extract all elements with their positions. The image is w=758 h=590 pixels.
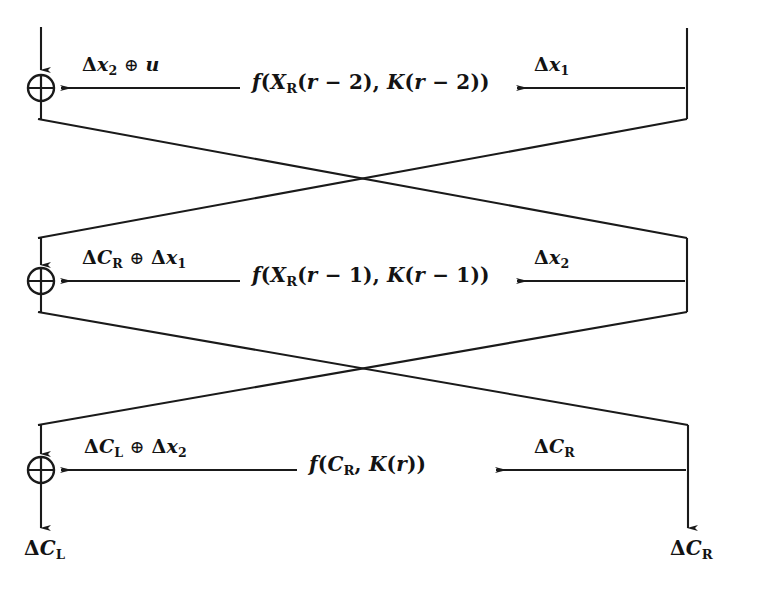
round-r-minus-1-left-label: ΔCR ⊕ Δx1 — [82, 248, 186, 270]
round-r-minus-2-function-label: f(XR(r − 2), K(r − 2)) — [252, 72, 490, 95]
round3-left-entry — [38, 425, 41, 454]
feistel-differential-diagram: Δx2 ⊕ u f(XR(r − 2), K(r − 2)) Δx1 ΔCR ⊕… — [0, 0, 758, 590]
round-r-left-label: ΔCL ⊕ Δx2 — [84, 437, 187, 459]
round1-left-down-stub — [39, 101, 41, 119]
round2-left-entry — [38, 238, 41, 265]
round-r-minus-1-function-label: f(XR(r − 1), K(r − 1)) — [252, 265, 490, 288]
round2-left-down-stub — [39, 294, 41, 312]
round-r-minus-1-right-label: Δx2 — [534, 248, 569, 270]
round-r-minus-2-right-label: Δx1 — [534, 55, 569, 77]
round-r-function-label: f(CR, K(r)) — [309, 454, 426, 477]
output-right-label: ΔCR — [670, 538, 713, 561]
round-r-right-label: ΔCR — [534, 437, 575, 459]
round-r-minus-2-left-label: Δx2 ⊕ u — [82, 55, 160, 77]
output-left-label: ΔCL — [24, 538, 65, 561]
